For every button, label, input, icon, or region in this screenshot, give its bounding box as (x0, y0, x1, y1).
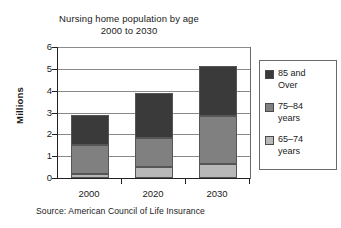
chart-legend: 85 andOver75–84years65–74years (259, 60, 337, 170)
y-tick-label-0: 0 (12, 173, 52, 182)
legend-item-label: 65–74years (278, 134, 336, 157)
y-tick-label-3: 3 (12, 108, 52, 117)
x-tick-mark-2 (249, 179, 250, 184)
legend-item-label-line-2: Over (278, 80, 336, 92)
bar-segment (71, 174, 109, 178)
bar-segment (135, 167, 173, 178)
y-tick-mark-6 (52, 47, 57, 48)
legend-color-swatch (265, 103, 274, 112)
x-tick-label-2030: 2030 (187, 188, 247, 199)
bar-group-2030 (199, 47, 237, 178)
legend-item-label-line-1: 75–84 (278, 101, 336, 113)
bar-group-2000 (71, 47, 109, 178)
bar-segment (135, 138, 173, 167)
bar-group-2020 (135, 47, 173, 178)
y-tick-mark-5 (52, 69, 57, 70)
bar-segment (135, 93, 173, 138)
legend-color-swatch (265, 70, 274, 79)
bar-segment (199, 66, 237, 116)
x-tick-label-2000: 2000 (59, 188, 119, 199)
bar-segment (71, 115, 109, 146)
y-tick-mark-0 (52, 178, 57, 179)
chart-title: Nursing home population by age 2000 to 2… (0, 13, 258, 37)
chart-title-line-1: Nursing home population by age (0, 13, 258, 25)
y-tick-mark-3 (52, 113, 57, 114)
x-tick-mark-1 (185, 179, 186, 184)
chart-figure: Nursing home population by age 2000 to 2… (0, 0, 341, 228)
chart-title-line-2: 2000 to 2030 (0, 25, 258, 37)
legend-item-label: 75–84years (278, 101, 336, 124)
y-tick-label-2: 2 (12, 129, 52, 138)
plot-area (57, 47, 250, 179)
y-tick-label-1: 1 (12, 151, 52, 160)
y-tick-mark-2 (52, 134, 57, 135)
legend-item-label-line-1: 85 and (278, 68, 336, 80)
y-tick-label-4: 4 (12, 86, 52, 95)
bar-segment (71, 145, 109, 173)
legend-item-label-line-2: years (278, 146, 336, 158)
legend-color-swatch (265, 136, 274, 145)
x-tick-label-2020: 2020 (123, 188, 183, 199)
y-tick-label-6: 6 (12, 42, 52, 51)
bar-segment (199, 116, 237, 164)
y-tick-mark-1 (52, 156, 57, 157)
y-tick-label-5: 5 (12, 64, 52, 73)
legend-item-label-line-2: years (278, 113, 336, 125)
y-tick-mark-4 (52, 91, 57, 92)
bar-segment (199, 164, 237, 178)
source-note: Source: American Council of Life Insuran… (36, 206, 205, 216)
x-tick-mark-0 (121, 179, 122, 184)
legend-item-label: 85 andOver (278, 68, 336, 91)
legend-item-label-line-1: 65–74 (278, 134, 336, 146)
